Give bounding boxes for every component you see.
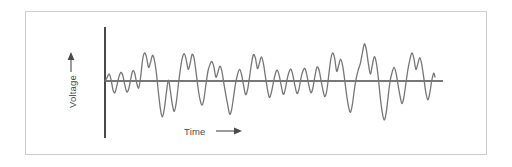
y-axis-label-text: Voltage — [67, 64, 78, 120]
signal-trace — [105, 44, 435, 120]
x-axis-label-text: Time — [184, 126, 206, 137]
waveform-figure: Voltage Time — [0, 0, 512, 167]
arrow-right-icon — [216, 128, 242, 135]
y-axis-label: Voltage — [62, 58, 80, 130]
